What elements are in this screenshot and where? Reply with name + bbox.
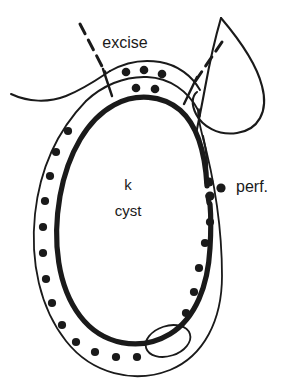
ring-dot: [190, 288, 198, 296]
excision-guides: [80, 24, 222, 104]
ring-dot: [39, 249, 47, 257]
ring-dot: [112, 353, 120, 361]
label-organ-structure: cyst: [115, 202, 143, 219]
inner-cyst-wall: [57, 97, 211, 344]
ring-dot: [201, 239, 209, 247]
left-tissue-tail: [11, 71, 110, 101]
cluster-dot-upper: [158, 70, 167, 79]
cluster-dot-lower: [132, 84, 141, 93]
ring-dot: [206, 218, 214, 226]
perf-dot: [205, 191, 214, 200]
perf-dot: [216, 183, 225, 192]
cluster-dot-upper: [140, 66, 149, 75]
ring-dot: [46, 172, 54, 180]
label-organ-initial: k: [124, 176, 132, 193]
ring-dot: [133, 353, 141, 361]
ring-dot: [91, 348, 99, 356]
label-perf: perf.: [236, 178, 268, 195]
inner-wall-main: [57, 97, 211, 344]
ring-dot: [52, 148, 60, 156]
cropped-caption-edge: [0, 382, 281, 392]
ring-dot: [39, 223, 47, 231]
capsule-dome-lower: [86, 77, 198, 110]
ring-dot: [64, 127, 72, 135]
ring-dot: [195, 264, 203, 272]
cluster-dot-upper: [122, 68, 131, 77]
ring-dot: [41, 197, 49, 205]
ring-dot: [48, 299, 56, 307]
cyst-diagram: excise perf. k cyst: [0, 0, 281, 392]
ring-dot: [182, 309, 190, 317]
figure-root: excise perf. k cyst: [0, 0, 281, 392]
ring-dot: [58, 321, 66, 329]
cluster-dot-lower: [151, 85, 160, 94]
label-excise: excise: [102, 34, 147, 51]
ring-dot: [42, 275, 50, 283]
dashed-left-guide: [80, 24, 105, 72]
capsule-outer-body: [34, 101, 222, 376]
perf-dot: [204, 177, 213, 186]
ring-dot: [72, 338, 80, 346]
right-loop-structure: [193, 18, 264, 134]
